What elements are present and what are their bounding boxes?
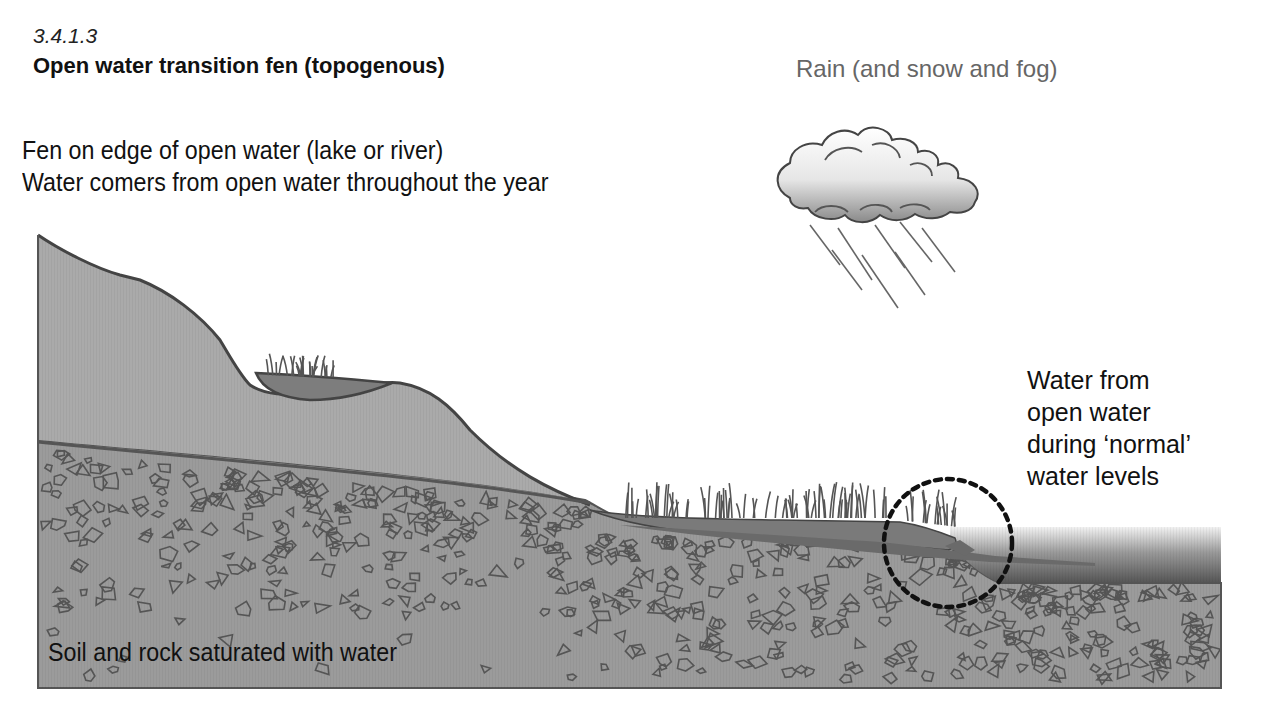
grass-blade [708,486,710,518]
water-source-label: Water from open water during ‘normal’ wa… [1027,364,1191,492]
grass-blade [728,499,730,518]
water-source-line: water levels [1027,460,1191,492]
grass-blade [658,486,659,518]
water-source-line: Water from [1027,364,1191,396]
grass-blade [269,354,272,376]
water-source-line: open water [1027,396,1191,428]
grass-blade [841,499,842,518]
grass-blade [667,484,669,518]
rain-streak [810,225,840,265]
grass-blade [736,503,740,518]
grass-blade [766,492,771,518]
rain-streak [862,255,898,308]
grass-tufts-upper [266,354,334,378]
rain-streak [838,228,872,280]
grass-blade [883,500,884,519]
grass-blade [927,504,930,523]
grass-blade [852,483,853,519]
grass-blade [628,483,629,519]
diagram-title: Open water transition fen (topogenous) [33,53,445,79]
grass-blade [906,506,908,521]
soil-label: Soil and rock saturated with water [48,638,397,667]
grass-blade [821,487,825,518]
rain-streak [832,250,862,290]
section-number: 3.4.1.3 [33,24,97,48]
grass-blade [716,493,718,518]
rain-streak [895,252,925,295]
grass-blade [874,490,876,518]
grass-blade [806,491,807,518]
grass-blade [859,495,861,518]
grass-blade [279,356,283,375]
rain-label: Rain (and snow and fog) [796,55,1058,83]
rain-streak [922,228,955,272]
description-line-1: Fen on edge of open water (lake or river… [22,136,443,165]
grass-blade [744,494,746,518]
water-source-line: during ‘normal’ [1027,428,1191,460]
grass-blade [775,496,778,518]
grass-blade [786,498,787,518]
grass-blade [283,356,288,376]
description-line-2: Water comers from open water throughout … [22,168,548,197]
open-water [950,527,1221,583]
fen-cross-section-diagram [0,0,1271,713]
grass-blade [796,504,797,519]
grass-blade [865,486,868,519]
grass-blade [848,494,851,518]
grass-blade [912,496,913,521]
rain-streak [875,225,905,268]
rain-streak [900,222,932,262]
grass-blade [726,490,728,518]
rain-cloud-icon [778,128,978,308]
